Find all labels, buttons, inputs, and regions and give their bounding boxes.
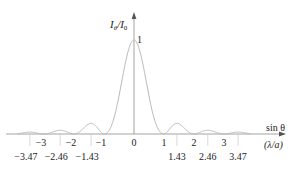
tick-label: 0 [132,137,137,148]
integer-tick-labels: −3−2−10123 [36,137,227,148]
secondary-max-label: −1.43 [76,151,99,162]
secondary-max-label: 3.47 [229,151,247,162]
x-axis-label: sin θ [266,122,285,133]
tick-label: 1 [162,137,167,148]
tick-label: 3 [222,137,227,148]
secondary-max-label: −3.47 [14,151,37,162]
tick-label: −2 [66,137,77,148]
secondary-max-label: 2.46 [199,151,217,162]
secondary-max-label: −2.46 [45,151,68,162]
y-axis-label: Iθ/I0 [109,18,128,32]
tick-label: −1 [96,137,107,148]
y-axis-arrow-icon [132,12,137,19]
tick-label: −3 [36,137,47,148]
secondary-max-label: 1.43 [168,151,186,162]
tick-label: 2 [192,137,197,148]
y-peak-label: 1 [137,34,142,45]
diffraction-chart: Iθ/I0 1 sin θ (λ/a) −3−2−10123 −3.47−2.4… [0,0,294,174]
x-axis-unit-label: (λ/a) [264,139,283,151]
secondary-max-tick-labels: −3.47−2.46−1.431.432.463.47 [14,151,247,162]
